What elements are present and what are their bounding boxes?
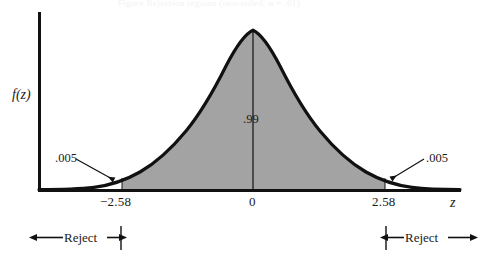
normal-distribution-figure: Figure Rejection regions (two-tailed, α …	[0, 0, 482, 256]
x-axis-label: z	[450, 196, 455, 210]
right-tail-leader-line	[391, 159, 424, 179]
left-tail-leader-line	[76, 159, 114, 180]
right-tail-area-label: .005	[426, 152, 448, 165]
left-reject-label: Reject	[64, 231, 97, 244]
right-reject-label: Reject	[405, 231, 438, 244]
left-tail-area-label: .005	[55, 152, 77, 165]
tick-label-zero: 0	[249, 195, 256, 208]
central-area-label: .99	[243, 113, 259, 126]
tick-label-negative-critical: −2.58	[100, 195, 131, 208]
tick-label-positive-critical: 2.58	[372, 195, 396, 208]
y-axis-label: f(z)	[12, 88, 31, 102]
shaded-central-region	[39, 30, 460, 190]
figure-caption-clipped: Figure Rejection regions (two-tailed, α …	[118, 0, 300, 8]
figure-canvas	[0, 0, 482, 256]
